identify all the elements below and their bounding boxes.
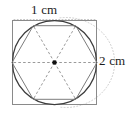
radius-line-southeast (55, 63, 76, 100)
radius-line-northeast (55, 26, 76, 63)
right-dimension-label: 2 cm (99, 54, 125, 67)
center-point-dot (52, 60, 57, 65)
top-dimension-label: 1 cm (31, 3, 57, 16)
geometry-figure: 1 cm 2 cm (0, 0, 137, 115)
radius-line-southwest (33, 63, 54, 100)
radius-line-northwest (33, 26, 54, 63)
